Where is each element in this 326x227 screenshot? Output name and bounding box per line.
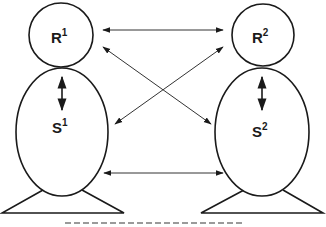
arrow-r2-s1 — [115, 47, 223, 124]
arrow-r1-s2 — [103, 47, 211, 124]
caption-cut-off — [65, 222, 260, 227]
relation-diagram: R1 S1 R2 S2 — [0, 0, 326, 227]
figure-person-1: R1 S1 — [2, 3, 124, 213]
figure-person-2: R2 S2 — [201, 4, 323, 213]
